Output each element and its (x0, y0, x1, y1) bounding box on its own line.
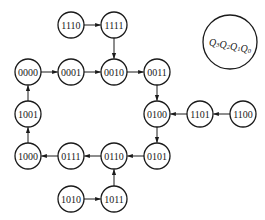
state-label: 0011 (147, 67, 167, 78)
state-node-1010: 1010 (58, 186, 84, 212)
state-node-1000: 1000 (15, 143, 41, 169)
state-label: 1100 (233, 109, 253, 120)
state-label: 0101 (147, 151, 167, 162)
state-label: 1101 (190, 109, 210, 120)
state-node-1100: 1100 (230, 101, 256, 127)
state-node-0010: 0010 (101, 59, 127, 85)
state-label: 1010 (61, 194, 81, 205)
state-node-1101: 1101 (187, 101, 213, 127)
state-node-1110: 1110 (58, 12, 84, 38)
state-node-0000: 0000 (15, 59, 41, 85)
state-node-1111: 1111 (101, 12, 127, 38)
state-node-0001: 0001 (58, 59, 84, 85)
state-label: 1011 (104, 194, 124, 205)
state-node-0101: 0101 (144, 143, 170, 169)
state-node-0011: 0011 (144, 59, 170, 85)
state-diagram: 1110111100000001001000111001010011011100… (0, 0, 265, 220)
state-node-1011: 1011 (101, 186, 127, 212)
state-label: 0001 (61, 67, 81, 78)
state-label: 0010 (104, 67, 124, 78)
state-node-0110: 0110 (101, 143, 127, 169)
state-label: 0110 (104, 151, 124, 162)
state-label: 0000 (18, 67, 38, 78)
state-label: 1111 (105, 20, 124, 31)
state-node-0100: 0100 (144, 101, 170, 127)
state-label: 0100 (147, 109, 167, 120)
state-node-0111: 0111 (58, 143, 84, 169)
state-node-1001: 1001 (15, 101, 41, 127)
legend-state-variables: Q3Q2Q1Q0 (203, 15, 257, 69)
state-label: 0111 (61, 151, 80, 162)
state-label: 1110 (61, 20, 80, 31)
state-label: 1000 (18, 151, 38, 162)
state-label: 1001 (18, 109, 38, 120)
